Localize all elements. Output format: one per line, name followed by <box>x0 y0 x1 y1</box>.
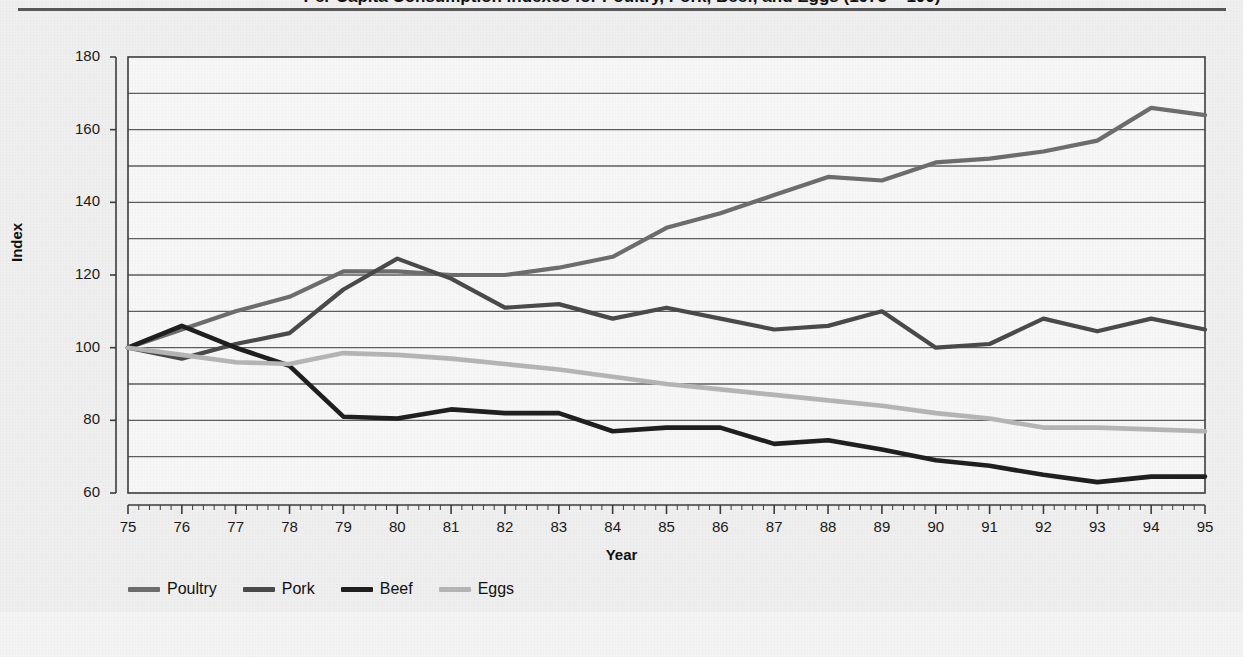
legend-item-eggs[interactable]: Eggs <box>439 580 514 598</box>
x-tick-label-95: 95 <box>1185 518 1225 535</box>
x-tick-label-76: 76 <box>162 518 202 535</box>
legend-label-eggs: Eggs <box>478 580 514 598</box>
x-tick-label-75: 75 <box>108 518 148 535</box>
y-axis-ticks <box>110 57 116 493</box>
legend-label-pork: Pork <box>282 580 315 598</box>
x-tick-label-83: 83 <box>539 518 579 535</box>
x-tick-label-85: 85 <box>647 518 687 535</box>
figure-panel: Per Capita Consumption Indexes for Poult… <box>0 0 1243 612</box>
x-tick-label-90: 90 <box>916 518 956 535</box>
x-tick-label-77: 77 <box>216 518 256 535</box>
y-axis-title: Index <box>8 223 25 262</box>
x-tick-label-80: 80 <box>377 518 417 535</box>
x-tick-label-94: 94 <box>1131 518 1171 535</box>
legend-item-poultry[interactable]: Poultry <box>128 580 217 598</box>
y-tick-label-120: 120 <box>56 265 100 282</box>
legend-swatch-pork <box>243 587 275 592</box>
page-bottom-margin <box>0 612 1243 657</box>
x-tick-label-87: 87 <box>754 518 794 535</box>
x-tick-label-84: 84 <box>593 518 633 535</box>
x-tick-label-82: 82 <box>485 518 525 535</box>
legend-swatch-eggs <box>439 587 471 592</box>
x-tick-label-79: 79 <box>323 518 363 535</box>
x-axis-title: Year <box>0 546 1243 563</box>
chart-legend: PoultryPorkBeefEggs <box>128 580 514 598</box>
y-tick-label-100: 100 <box>56 338 100 355</box>
y-tick-label-60: 60 <box>56 483 100 500</box>
legend-swatch-beef <box>341 587 373 592</box>
x-tick-label-93: 93 <box>1077 518 1117 535</box>
x-tick-label-86: 86 <box>700 518 740 535</box>
x-tick-label-81: 81 <box>431 518 471 535</box>
y-tick-label-140: 140 <box>56 192 100 209</box>
legend-item-pork[interactable]: Pork <box>243 580 315 598</box>
line-chart: Index Year 6080100120140160180 757677787… <box>0 0 1243 612</box>
x-tick-label-78: 78 <box>270 518 310 535</box>
legend-label-beef: Beef <box>380 580 413 598</box>
y-tick-label-180: 180 <box>56 47 100 64</box>
y-tick-label-160: 160 <box>56 120 100 137</box>
x-tick-label-89: 89 <box>862 518 902 535</box>
y-tick-label-80: 80 <box>56 410 100 427</box>
scanned-page: Per Capita Consumption Indexes for Poult… <box>0 0 1243 657</box>
legend-label-poultry: Poultry <box>167 580 217 598</box>
x-tick-label-91: 91 <box>970 518 1010 535</box>
x-tick-label-92: 92 <box>1023 518 1063 535</box>
x-tick-label-88: 88 <box>808 518 848 535</box>
legend-swatch-poultry <box>128 587 160 592</box>
legend-item-beef[interactable]: Beef <box>341 580 413 598</box>
x-axis-ticks <box>128 505 1205 514</box>
